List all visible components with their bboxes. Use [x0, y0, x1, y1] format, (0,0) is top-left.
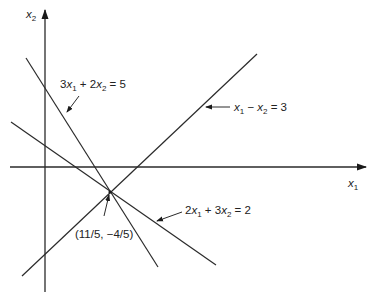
x2-axis-label: x2 — [25, 8, 37, 23]
equations-diagram: x2 x1 3x1 + 2x2 = 5 x1 − x2 = 3 2x1 + 3x… — [0, 0, 375, 300]
equation-label-a: 3x1 + 2x2 = 5 — [60, 78, 126, 93]
pointer-arrow-icon — [67, 96, 79, 112]
equation-label-b: x1 − x2 = 3 — [233, 101, 287, 116]
equation-label-c: 2x1 + 3x2 = 2 — [185, 204, 251, 219]
pointer-arrow-icon — [157, 212, 182, 221]
line-x1-minus-x2-eq-3 — [22, 54, 257, 276]
x1-axis-label: x1 — [347, 177, 359, 192]
line-2x1-plus-3x2-eq-2 — [11, 122, 216, 265]
intersection-point — [108, 190, 111, 193]
intersection-label: (11/5, −4/5) — [75, 228, 133, 240]
